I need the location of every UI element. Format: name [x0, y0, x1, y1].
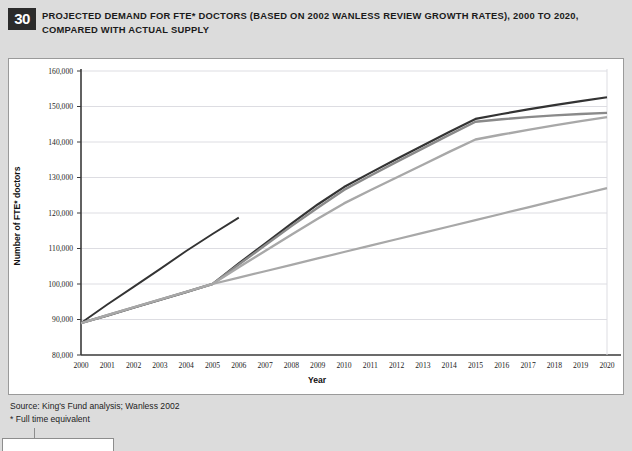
chart-y-axis-ticks: 80,00090,000100,000110,000120,000130,000…: [48, 67, 81, 360]
chart-x-axis-ticks: 2000200120022003200420052006200720082009…: [73, 361, 614, 370]
svg-text:80,000: 80,000: [52, 351, 73, 360]
figure-page: 30 PROJECTED DEMAND FOR FTE* DOCTORS (BA…: [0, 0, 632, 451]
svg-text:2009: 2009: [310, 361, 325, 370]
svg-text:2007: 2007: [258, 361, 273, 370]
figure-number-badge: 30: [8, 8, 36, 30]
x-axis-title: Year: [9, 375, 625, 385]
next-figure-stub: [2, 438, 114, 451]
svg-text:2005: 2005: [205, 361, 220, 370]
svg-text:2017: 2017: [521, 361, 536, 370]
chart-frame: 80,00090,000100,000110,000120,000130,000…: [8, 58, 624, 395]
svg-text:110,000: 110,000: [49, 244, 74, 253]
chart-series-group: [81, 97, 607, 323]
svg-text:2006: 2006: [231, 361, 246, 370]
svg-text:2008: 2008: [284, 361, 299, 370]
figure-title: PROJECTED DEMAND FOR FTE* DOCTORS (BASED…: [42, 9, 617, 36]
svg-text:100,000: 100,000: [48, 280, 73, 289]
svg-text:2003: 2003: [152, 361, 167, 370]
svg-text:160,000: 160,000: [48, 67, 73, 76]
svg-text:2014: 2014: [442, 361, 457, 370]
figure-header: 30 PROJECTED DEMAND FOR FTE* DOCTORS (BA…: [0, 0, 632, 56]
svg-text:2012: 2012: [389, 361, 404, 370]
svg-text:2001: 2001: [100, 361, 115, 370]
svg-text:140,000: 140,000: [48, 138, 73, 147]
svg-text:2010: 2010: [336, 361, 351, 370]
svg-text:120,000: 120,000: [48, 209, 73, 218]
svg-text:2018: 2018: [547, 361, 562, 370]
fte-footnote-line: * Full time equivalent: [10, 413, 179, 426]
svg-text:2019: 2019: [573, 361, 588, 370]
svg-text:2016: 2016: [494, 361, 509, 370]
svg-text:90,000: 90,000: [52, 315, 73, 324]
svg-text:2013: 2013: [415, 361, 430, 370]
y-axis-title: Number of FTE* doctors: [12, 96, 22, 336]
svg-text:2020: 2020: [599, 361, 614, 370]
chart-axis-lines: [81, 69, 621, 355]
figure-footnote: Source: King's Fund analysis; Wanless 20…: [10, 400, 179, 425]
svg-text:130,000: 130,000: [48, 173, 73, 182]
line-chart-plot: 80,00090,000100,000110,000120,000130,000…: [9, 59, 623, 394]
svg-text:2002: 2002: [126, 361, 141, 370]
svg-text:2015: 2015: [468, 361, 483, 370]
svg-text:2000: 2000: [73, 361, 88, 370]
svg-text:2011: 2011: [363, 361, 378, 370]
svg-text:2004: 2004: [179, 361, 194, 370]
source-line: Source: King's Fund analysis; Wanless 20…: [10, 400, 179, 413]
svg-text:150,000: 150,000: [48, 102, 73, 111]
